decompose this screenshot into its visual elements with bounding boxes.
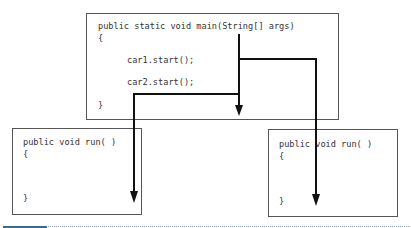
car1-thread-arrow <box>240 59 320 206</box>
main-thread-arrow <box>235 34 243 116</box>
accent-bar <box>3 226 47 228</box>
dotted-rule <box>48 226 409 227</box>
thread-flow-arrows <box>0 0 411 228</box>
car2-thread-arrow <box>130 94 239 203</box>
